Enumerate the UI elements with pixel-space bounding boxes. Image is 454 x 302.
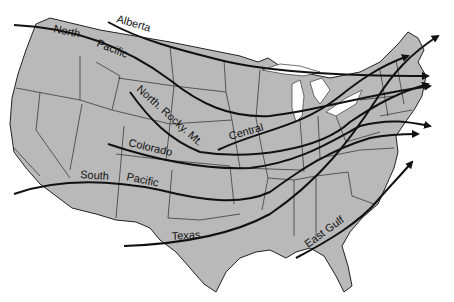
label-alberta: Alberta <box>115 12 153 33</box>
storm-track-map: North Pacific Alberta North. Rocky. Mt. … <box>0 0 454 302</box>
label-south: South <box>80 168 110 182</box>
label-texas: Texas <box>171 228 201 242</box>
